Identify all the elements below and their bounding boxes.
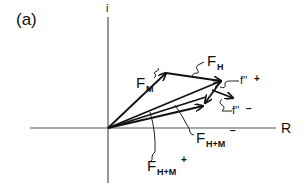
svg-text:−: − xyxy=(230,125,236,136)
argand-diagram: (a) i R F M F H f'' + f'' − F H+M − F H+… xyxy=(0,0,307,188)
panel-label: (a) xyxy=(16,10,37,29)
svg-text:H: H xyxy=(217,62,224,72)
svg-text:f'': f'' xyxy=(232,104,239,116)
leader-fpp-plus xyxy=(220,81,239,88)
label-f-hm-plus: F H+M + xyxy=(147,154,187,177)
vector-fpp-plus xyxy=(212,90,233,98)
svg-text:+: + xyxy=(181,154,187,165)
label-fpp-plus: f'' + xyxy=(240,73,260,86)
svg-text:H+M: H+M xyxy=(206,139,225,149)
svg-text:F: F xyxy=(147,157,156,174)
label-f-m: F M xyxy=(136,74,154,94)
vector-f-hm-plus xyxy=(108,81,221,128)
svg-text:H+M: H+M xyxy=(157,167,176,177)
label-f-h: F H xyxy=(207,52,224,72)
real-axis-label: R xyxy=(281,120,291,136)
imaginary-axis-label: i xyxy=(106,2,108,14)
svg-text:F: F xyxy=(207,52,216,69)
svg-text:f'': f'' xyxy=(240,74,247,86)
leader-f-hm-plus xyxy=(150,112,155,162)
leader-f-m xyxy=(154,68,159,78)
leader-fpp-minus xyxy=(220,99,232,111)
svg-text:+: + xyxy=(254,73,260,84)
svg-text:−: − xyxy=(246,103,252,114)
vector-f-hm-minus xyxy=(108,106,203,128)
vector-extra xyxy=(108,97,206,128)
svg-text:F: F xyxy=(136,74,145,91)
label-fpp-minus: f'' − xyxy=(232,103,252,116)
leader-f-h xyxy=(192,62,204,76)
svg-text:M: M xyxy=(146,84,154,94)
svg-text:F: F xyxy=(196,129,205,146)
